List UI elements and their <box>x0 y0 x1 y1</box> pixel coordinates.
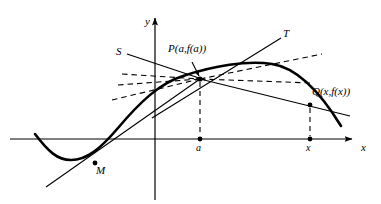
secant-line-S-segment <box>127 54 205 80</box>
tick-label-a: a <box>196 143 201 153</box>
secant-line-PQ <box>196 78 350 116</box>
dashed-secant-family <box>112 54 322 100</box>
diagram-canvas <box>0 0 381 204</box>
point-Q-label: Q(x,f(x)) <box>312 86 350 97</box>
tick-label-x: x <box>306 143 310 153</box>
math-diagram: y x a x P(a,f(a)) Q(x,f(x)) M S T <box>0 0 381 204</box>
tangent-line-T-label: T <box>283 28 289 39</box>
tick-x-dot <box>308 137 313 142</box>
secant-line-S-label: S <box>116 46 122 57</box>
dashed-secant-5 <box>200 79 312 83</box>
point-P-dot <box>197 76 202 81</box>
y-axis-label: y <box>145 16 150 27</box>
x-axis-label: x <box>361 142 366 153</box>
point-P-label: P(a,f(a)) <box>168 43 206 54</box>
secant-line-S-lower <box>46 79 200 187</box>
point-M-label: M <box>96 165 105 176</box>
function-curve <box>35 63 341 160</box>
point-Q-dot <box>308 103 313 108</box>
tick-a-dot <box>198 137 203 142</box>
dashed-drop-lines <box>200 82 310 136</box>
